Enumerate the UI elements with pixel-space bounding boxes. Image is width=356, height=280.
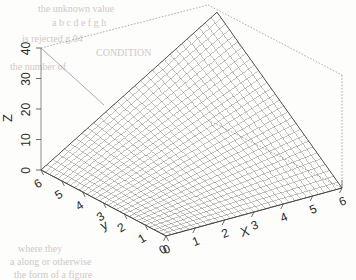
z-axis-tick-label: 30	[19, 72, 33, 86]
y-axis-tick-label: 1	[136, 231, 149, 247]
y-axis-tick-label: 6	[31, 176, 44, 192]
mesh-line-x	[188, 39, 313, 197]
x-axis-tick-label: 2	[219, 225, 231, 241]
mesh-line-x	[64, 149, 189, 230]
z-axis-tick-labels: 010203040	[19, 42, 33, 174]
x-axis-tick-label: 6	[337, 193, 349, 209]
z-axis-tick-label: 40	[19, 42, 33, 56]
mesh-line-x	[70, 144, 195, 228]
surface-plot: 010203040 Z 0123456 y 0123456 X	[0, 0, 356, 280]
y-axis-tick-labels: 0123456	[31, 176, 169, 258]
mesh-line-x	[170, 54, 295, 201]
plot-box-front-edges	[41, 48, 342, 236]
x-axis: 0123456 X	[161, 188, 349, 257]
x-axis-tick-label: 5	[307, 201, 319, 217]
y-axis-tick	[166, 236, 169, 241]
y-axis-tick-label: 4	[73, 198, 86, 214]
mesh-line-x	[211, 17, 336, 189]
figure-page: the unknown valuea b c d e f g his rejec…	[0, 0, 356, 280]
surface-edge-right-y	[217, 12, 342, 188]
y-axis-tick-label: 2	[115, 220, 128, 236]
mesh-line-x	[176, 49, 301, 199]
mesh-line-x	[194, 33, 319, 194]
z-axis-tick-label: 0	[19, 167, 33, 174]
mesh-line-x	[59, 154, 184, 231]
mesh-line-x	[106, 112, 231, 218]
z-axis-title: Z	[0, 114, 15, 122]
x-axis-tick-label: 4	[278, 209, 290, 225]
mesh-line-x	[135, 86, 260, 211]
mesh-line-x	[117, 102, 242, 216]
z-axis-tick-label: 10	[19, 133, 33, 147]
y-axis-tick-label: 5	[52, 187, 65, 203]
mesh-line-x	[164, 60, 289, 203]
z-axis: 010203040 Z	[0, 42, 41, 174]
surface-edge-back-x	[41, 12, 217, 170]
plot-box-upper-panel	[41, 48, 104, 105]
mesh-line-x	[182, 44, 307, 198]
z-axis-tick-label: 20	[19, 103, 33, 117]
y-axis: 0123456 y	[31, 170, 169, 257]
mesh-line-x	[129, 91, 254, 212]
x-axis-tick-label: 3	[249, 217, 261, 233]
x-axis-tick	[164, 236, 167, 241]
x-axis-tick-labels: 0123456	[161, 193, 349, 257]
y-axis-title: y	[98, 217, 111, 234]
x-axis-tick-label: 1	[190, 233, 202, 249]
x-axis-title: X	[239, 223, 252, 240]
z-axis-ticks	[36, 48, 41, 170]
